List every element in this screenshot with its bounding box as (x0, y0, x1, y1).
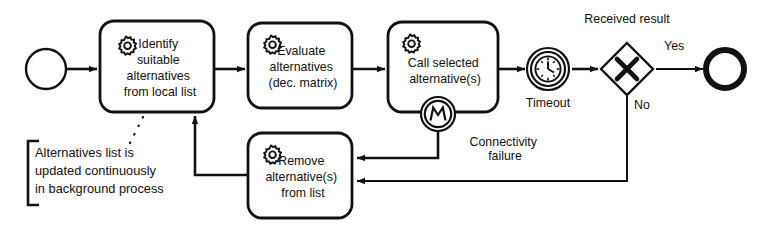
annotation-text: Alternatives list is updated continuousl… (35, 145, 164, 196)
gateway-label: Received result (584, 12, 670, 26)
flow-label-yes: Yes (664, 39, 684, 53)
exclusive-gateway-received-result[interactable] (601, 43, 653, 95)
task-remove-alternatives[interactable]: Remove alternative(s) from list (248, 133, 352, 218)
flow-label-no: No (634, 98, 650, 112)
error-event-label: Connectivity failure (470, 135, 541, 163)
task-label: Evaluate alternatives (dec. matrix) (269, 44, 338, 90)
process-flow-svg: Identify suitable alternatives from loca… (0, 0, 761, 234)
flow-error-to-remove (357, 131, 438, 158)
bpmn-diagram-canvas: Identify suitable alternatives from loca… (0, 0, 761, 234)
text-annotation: Alternatives list is updated continuousl… (28, 141, 164, 205)
flow-remove-to-identify (195, 116, 248, 175)
association-annotation-to-identify (130, 109, 147, 143)
timer-event-label: Timeout (526, 96, 571, 110)
end-event[interactable] (706, 50, 744, 88)
intermediate-timer-event[interactable] (527, 48, 569, 90)
task-evaluate-alternatives[interactable]: Evaluate alternatives (dec. matrix) (248, 23, 352, 108)
task-identify-suitable-alternatives[interactable]: Identify suitable alternatives from loca… (100, 21, 214, 112)
boundary-error-event[interactable] (421, 97, 455, 131)
clock-icon (535, 56, 560, 81)
start-event[interactable] (26, 49, 66, 89)
